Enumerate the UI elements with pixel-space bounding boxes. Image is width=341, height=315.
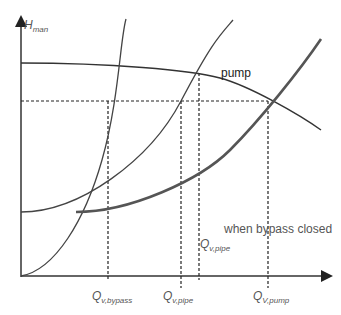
inline-qpipe-label: Qv,pipe [200,237,230,253]
y-axis-label: Hman [24,18,48,34]
pipe-curve [21,20,233,212]
closed-label: when bypass closed [224,222,332,236]
bypass-curve [21,19,126,276]
system-curve-diagram [0,0,341,315]
x-label-pump: QV,pump [253,289,289,305]
x-label-pipe: Qv,pipe [163,289,193,305]
x-label-bypass: Qv,bypass [92,289,132,305]
pump-label: pump [221,66,251,80]
